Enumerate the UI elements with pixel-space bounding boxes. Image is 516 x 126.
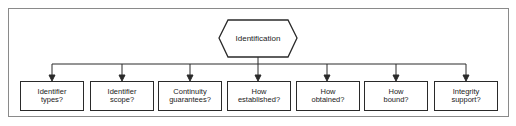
root-node-identification: Identification <box>219 20 297 57</box>
arrow-drops <box>49 64 469 81</box>
child-node-identifier-scope: Identifierscope? <box>90 81 154 111</box>
node-label-line2: scope? <box>108 96 137 105</box>
node-label-line2: types? <box>38 96 67 105</box>
child-node-how-obtained: Howobtained? <box>296 81 360 111</box>
child-node-identifier-types: Identifiertypes? <box>20 81 84 111</box>
node-label-line2: obtained? <box>312 96 345 105</box>
node-label-line2: guarantees? <box>169 96 211 105</box>
child-node-how-bound: Howbound? <box>364 81 428 111</box>
child-node-continuity-guarantees: Continuityguarantees? <box>158 81 222 111</box>
child-node-how-established: Howestablished? <box>227 81 291 111</box>
root-label: Identification <box>236 34 281 43</box>
child-node-integrity-support: Integritysupport? <box>434 81 498 111</box>
node-label-line2: bound? <box>383 96 408 105</box>
node-label-line2: established? <box>238 96 280 105</box>
node-label-line2: support? <box>451 96 480 105</box>
